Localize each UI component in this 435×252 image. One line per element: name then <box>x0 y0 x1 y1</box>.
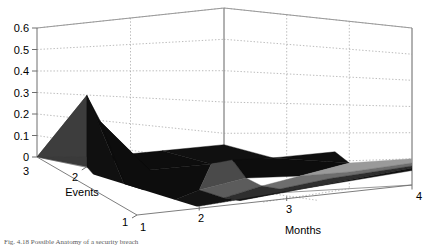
z-tick-0.6: 0.6 <box>14 22 29 34</box>
y-tick-1: 1 <box>122 216 128 228</box>
z-tick-0: 0 <box>23 151 29 163</box>
x-tick-3: 3 <box>286 203 292 215</box>
figure-container: 0.6 0.5 0.4 0.3 0.2 0.1 0 3 2 1 1 2 3 4 … <box>0 0 435 252</box>
y-axis-title: Events <box>65 186 99 198</box>
z-gridlines-right <box>224 8 412 165</box>
x-tick-1: 1 <box>140 221 146 233</box>
z-tick-0.1: 0.1 <box>14 130 29 142</box>
z-tick-0.4: 0.4 <box>14 65 29 77</box>
x-tick-2: 2 <box>198 212 204 224</box>
figure-caption: Fig. 4.18 Possible Anatomy of a security… <box>4 238 138 246</box>
surface-plot-3d: 0.6 0.5 0.4 0.3 0.2 0.1 0 3 2 1 1 2 3 4 … <box>0 0 435 252</box>
z-tick-0.5: 0.5 <box>14 44 29 56</box>
x-axis-title: Months <box>285 224 322 236</box>
z-tick-0.3: 0.3 <box>14 87 29 99</box>
y-tick-3: 3 <box>23 165 29 177</box>
z-tick-labels: 0.6 0.5 0.4 0.3 0.2 0.1 0 <box>14 22 29 163</box>
x-tick-4: 4 <box>416 190 422 202</box>
z-tick-0.2: 0.2 <box>14 108 29 120</box>
y-tick-2: 2 <box>72 171 78 183</box>
